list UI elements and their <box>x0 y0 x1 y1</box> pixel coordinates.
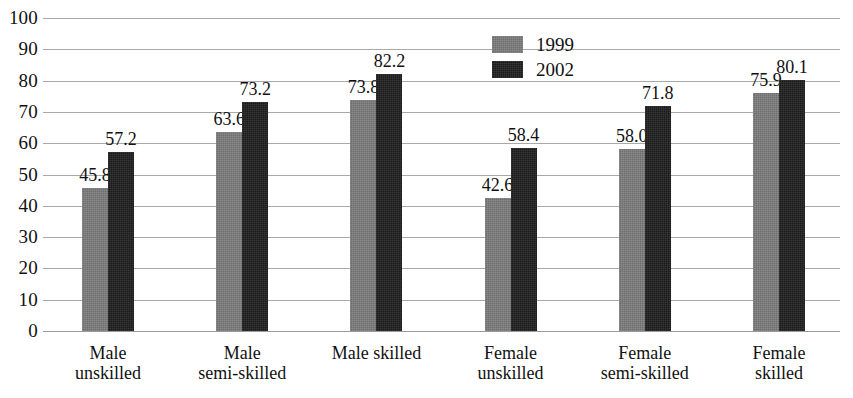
bar-2002-female-skilled[interactable] <box>779 80 805 331</box>
bar-2002-male-skilled[interactable] <box>376 74 402 331</box>
bar-1999-male-unskilled[interactable] <box>82 188 108 331</box>
value-label-1999-male-unskilled: 45.8 <box>79 166 111 184</box>
x-category-label-female-semi-skilled: Femalesemi-skilled <box>601 343 689 383</box>
x-category-label-male-skilled: Male skilled <box>332 343 421 363</box>
legend: 1999 2002 <box>492 33 574 83</box>
bar-chart: 1009080706050403020100 45.857.263.673.27… <box>0 0 853 398</box>
bar-2002-male-unskilled[interactable] <box>108 152 134 331</box>
bar-1999-male-skilled[interactable] <box>350 100 376 331</box>
x-category-label-male-semi-skilled: Malesemi-skilled <box>198 343 286 383</box>
value-label-1999-female-unskilled: 42.6 <box>482 176 514 194</box>
value-label-1999-male-skilled: 73.8 <box>348 78 380 96</box>
bar-2002-female-semi-skilled[interactable] <box>645 106 671 331</box>
x-category-label-female-skilled: Femaleskilled <box>753 343 806 383</box>
x-category-label-male-unskilled: Maleunskilled <box>75 343 141 383</box>
legend-label-2002: 2002 <box>536 60 574 79</box>
value-label-2002-male-semi-skilled: 73.2 <box>239 80 271 98</box>
legend-label-1999: 1999 <box>536 35 574 54</box>
legend-swatch-1999-icon <box>492 36 523 53</box>
value-label-1999-female-semi-skilled: 58.0 <box>616 127 648 145</box>
value-label-2002-female-semi-skilled: 71.8 <box>642 84 674 102</box>
plot-area: 45.857.263.673.273.882.242.658.458.071.8… <box>0 0 853 398</box>
x-category-label-female-unskilled: Femaleunskilled <box>478 343 544 383</box>
bar-2002-female-unskilled[interactable] <box>511 148 537 331</box>
value-label-2002-female-skilled: 80.1 <box>776 58 808 76</box>
bar-1999-female-unskilled[interactable] <box>485 198 511 331</box>
bar-1999-female-semi-skilled[interactable] <box>619 149 645 331</box>
value-label-2002-male-skilled: 82.2 <box>374 52 406 70</box>
bar-1999-male-semi-skilled[interactable] <box>216 132 242 331</box>
bar-1999-female-skilled[interactable] <box>753 93 779 331</box>
legend-swatch-2002-icon <box>492 61 523 78</box>
value-label-2002-male-unskilled: 57.2 <box>105 130 137 148</box>
value-label-1999-male-semi-skilled: 63.6 <box>213 110 245 128</box>
bar-2002-male-semi-skilled[interactable] <box>242 102 268 331</box>
legend-item-1999[interactable]: 1999 <box>492 33 574 55</box>
value-label-2002-female-unskilled: 58.4 <box>508 126 540 144</box>
legend-item-2002[interactable]: 2002 <box>492 58 574 80</box>
